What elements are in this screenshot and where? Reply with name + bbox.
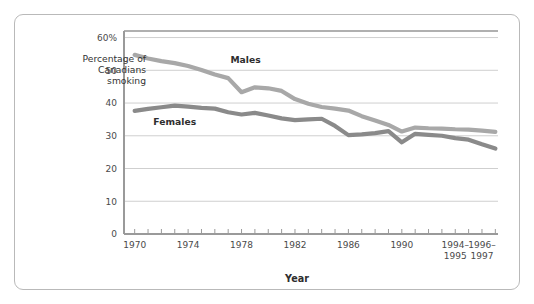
x-tick-label-3-line1: 1982 — [284, 240, 307, 250]
x-axis-title: Year — [284, 273, 309, 284]
y-tick-label-30: 30 — [106, 131, 118, 141]
x-tick-label-7-line1: 1996– — [468, 240, 496, 250]
x-tick-label-5-line1: 1990 — [390, 240, 413, 250]
chart-figure: 0102030405060% 1970197419781982198619901… — [0, 0, 534, 304]
smoking-trend-line-chart: 0102030405060% 1970197419781982198619901… — [0, 0, 534, 304]
y-tick-label-10: 10 — [106, 197, 118, 207]
x-tick-label-7-line2: 1997 — [471, 251, 494, 261]
x-tick-label-0-line1: 1970 — [123, 240, 146, 250]
y-axis-caption-line-2: Canadians — [98, 64, 146, 75]
y-axis-caption-line-3: smoking — [107, 75, 146, 86]
series-label-females: Females — [153, 116, 196, 127]
axis-lines-group — [124, 31, 498, 234]
y-tick-label-40: 40 — [106, 98, 118, 108]
x-tick-label-1-line1: 1974 — [177, 240, 200, 250]
series-lines-group — [135, 55, 496, 149]
series-label-males: Males — [230, 54, 261, 65]
x-tick-label-6-line1: 1994– — [442, 240, 470, 250]
x-tick-label-2-line1: 1978 — [230, 240, 253, 250]
y-tick-label-60%: 60% — [97, 33, 117, 43]
y-axis-caption-line-1: Percentage of — [83, 53, 147, 64]
y-tick-label-20: 20 — [106, 164, 118, 174]
y-tick-label-0: 0 — [111, 229, 117, 239]
x-tick-label-6-line2: 1995 — [444, 251, 467, 261]
x-tick-label-4-line1: 1986 — [337, 240, 360, 250]
gridlines-group — [124, 31, 498, 234]
x-tick-labels-group: 1970197419781982198619901994–19951996–19… — [123, 240, 496, 261]
